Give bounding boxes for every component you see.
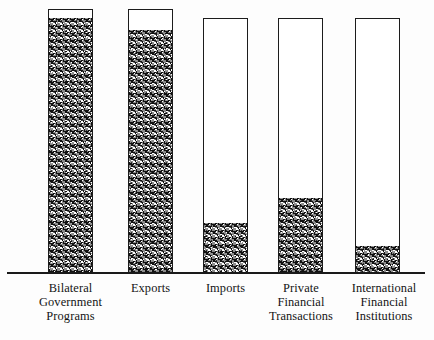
bar-imports[interactable] bbox=[203, 18, 248, 273]
plot-area bbox=[0, 0, 434, 278]
bar-fill-international-financial-institutions bbox=[356, 246, 399, 273]
bar-fill-bilateral-government-programs bbox=[49, 18, 92, 273]
bar-bilateral-government-programs[interactable] bbox=[48, 9, 93, 273]
bar-private-financial-transactions[interactable] bbox=[278, 18, 323, 273]
bar-chart: Bilateral Government Programs Exports Im… bbox=[0, 0, 434, 340]
bar-fill-private-financial-transactions bbox=[279, 198, 322, 273]
x-axis-baseline bbox=[7, 272, 425, 274]
bar-fill-imports bbox=[204, 223, 247, 273]
x-axis-label-international-financial-institutions: International Financial Institutions bbox=[334, 281, 434, 324]
bar-international-financial-institutions[interactable] bbox=[355, 18, 400, 273]
bar-fill-exports bbox=[129, 30, 172, 273]
bar-exports[interactable] bbox=[128, 9, 173, 273]
